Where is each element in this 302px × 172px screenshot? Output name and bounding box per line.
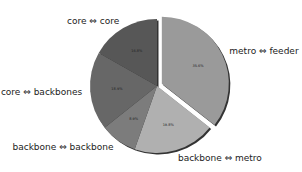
slice-category-label: backbone ⇔ metro <box>178 153 262 163</box>
slice-category-label: core ⇔ core <box>67 16 120 26</box>
slice-percent-label: 16.8% <box>131 49 143 53</box>
slice-percent-label: 18.9% <box>111 87 123 91</box>
slice-category-label: metro ⇔ feeder <box>229 46 299 56</box>
slice-category-label: core ⇔ backbones <box>1 87 83 97</box>
slice-percent-label: 35.6% <box>192 64 204 68</box>
pie-chart: 35.6%metro ⇔ feeder19.8%backbone ⇔ metro… <box>0 0 302 172</box>
slice-category-label: backbone ⇔ backbone <box>12 142 113 152</box>
slice-percent-label: 8.9% <box>129 117 139 121</box>
slice-percent-label: 19.8% <box>163 123 175 127</box>
